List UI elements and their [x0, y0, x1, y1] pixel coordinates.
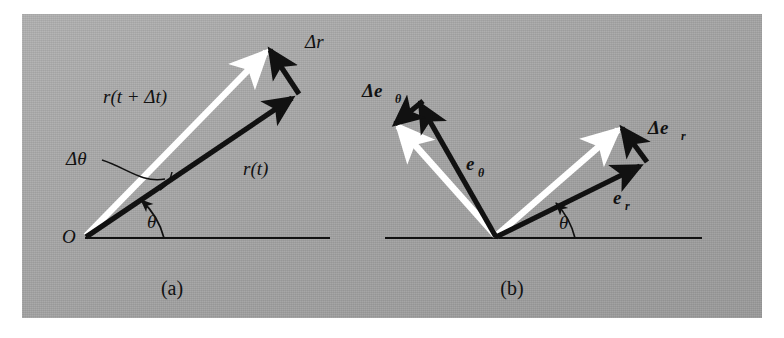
panel-b-label-delta-e-theta: Δe: [361, 80, 383, 101]
panel-b-label-e-r-subscript: r: [625, 199, 630, 213]
panel-b-vector-delta-e-r: [622, 128, 647, 162]
panel-b-label-delta-e-theta-group: Δe θ: [361, 80, 402, 106]
panel-b-label-e-r-group: e r: [613, 187, 630, 213]
panel-b-label-theta: θ: [559, 212, 568, 233]
panel-a-label-r-t: r(t): [243, 158, 268, 180]
panel-a-caption: (a): [161, 277, 183, 300]
panel-a-label-delta-r: Δr: [304, 31, 324, 52]
panel-b-label-e-theta-subscript: θ: [478, 166, 485, 180]
panel-b-caption: (b): [500, 277, 523, 300]
panel-a-label-origin: O: [62, 226, 76, 247]
panel-b: e r e θ Δe r Δe θ θ (b): [361, 80, 702, 300]
panel-b-vector-e-theta-displaced: [398, 126, 496, 236]
panel-b-vector-e-theta: [420, 104, 496, 237]
panel-b-label-delta-e-r-group: Δe r: [647, 117, 686, 143]
panel-a-label-theta: θ: [147, 211, 156, 232]
panel-a: r(t + Δt) r(t) Δr Δθ θ O (a): [62, 31, 330, 300]
panel-b-label-e-theta-group: e θ: [466, 153, 485, 180]
vector-diagram-svg: r(t + Δt) r(t) Δr Δθ θ O (a): [0, 0, 784, 338]
panel-b-label-delta-e-r-subscript: r: [681, 129, 686, 143]
figure-root: r(t + Δt) r(t) Δr Δθ θ O (a): [0, 0, 784, 338]
panel-a-label-r-t-plus-dt: r(t + Δt): [103, 86, 167, 108]
panel-a-label-delta-theta: Δθ: [65, 148, 86, 169]
panel-a-vector-r-t-plus-dt: [86, 52, 266, 236]
panel-b-label-delta-e-r: Δe: [647, 117, 669, 138]
panel-b-label-delta-e-theta-subscript: θ: [395, 92, 402, 106]
panel-b-label-e-r: e: [613, 187, 622, 208]
panel-a-vector-delta-r: [270, 50, 299, 94]
panel-b-label-e-theta: e: [466, 153, 475, 174]
